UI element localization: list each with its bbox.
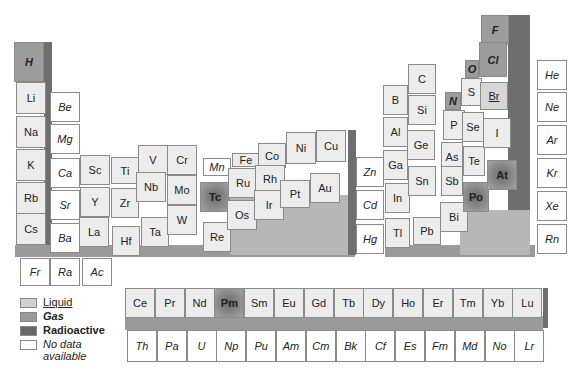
element-symbol: In [393,192,402,204]
nodata-swatch [20,340,37,350]
element-symbol: Ar [547,134,558,146]
element-cr: Cr [167,145,197,175]
lanthanide-ho: Ho [393,288,423,318]
element-symbol: Tl [393,227,402,239]
element-symbol: Pb [420,225,433,237]
element-ba: Ba [50,223,80,253]
gas-swatch [20,312,37,322]
lanthanide-gd: Gd [304,288,334,318]
actinide-es: Es [395,330,425,362]
element-rn: Rn [537,224,567,254]
lanthanide-yb: Yb [483,288,513,318]
element-symbol: P [450,119,457,131]
element-symbol: Sc [89,164,102,176]
element-symbol: Fe [240,154,253,166]
element-cs: Cs [16,213,46,245]
element-symbol: Mg [57,133,72,145]
element-symbol: Po [469,191,483,203]
element-nb: Nb [136,172,166,202]
element-symbol: Pa [165,340,178,352]
element-la: La [79,217,109,247]
element-he: He [537,60,567,90]
element-ca: Ca [50,158,80,188]
element-hf: Hf [112,226,140,256]
element-symbol: Hg [363,233,377,245]
element-symbol: Pm [221,297,238,309]
element-symbol: N [449,95,457,107]
element-symbol: I [495,127,498,139]
element-symbol: Fm [432,340,448,352]
liquid-swatch [20,298,37,308]
element-f: F [481,15,509,45]
element-sc: Sc [80,155,110,185]
element-y: Y [80,187,110,217]
element-symbol: Y [91,196,98,208]
element-ne: Ne [537,92,567,122]
element-symbol: At [496,169,508,181]
element-symbol: Os [235,209,249,221]
lanthanide-er: Er [423,288,453,318]
lanthanide-lu: Lu [512,288,542,318]
element-symbol: Be [58,101,71,113]
element-symbol: Es [404,340,417,352]
actinide-am: Am [276,330,306,362]
element-na: Na [16,116,46,148]
element-symbol: Nd [193,297,207,309]
actinide-md: Md [455,330,485,362]
element-symbol: No [493,340,507,352]
element-w: W [167,205,197,235]
element-be: Be [50,92,80,122]
element-mg: Mg [50,124,80,154]
element-b: B [383,85,408,115]
element-ti: Ti [111,157,139,184]
element-sr: Sr [50,190,80,220]
element-symbol: Ru [236,177,250,189]
element-symbol: Np [224,340,238,352]
element-symbol: Rh [263,173,277,185]
element-au: Au [310,173,340,203]
element-kr: Kr [537,158,567,188]
element-symbol: Pu [254,340,267,352]
element-symbol: Cf [375,340,386,352]
periodic-table-diagram: HLiNaKRbCsFrBeMgCaSrBaRaScYLaAcTiZrHfVNb… [0,0,581,378]
actinide-u: U [187,330,217,362]
element-symbol: Li [27,92,36,104]
element-symbol: As [446,151,459,163]
element-at: At [487,160,517,190]
element-rb: Rb [16,182,46,214]
element-symbol: Zn [364,166,377,178]
element-h: H [14,42,44,82]
element-symbol: Ne [545,101,559,113]
actinide-no: No [485,330,515,362]
element-symbol: Ta [149,226,161,238]
element-symbol: Ac [91,266,104,278]
element-pb: Pb [413,217,441,245]
element-mo: Mo [167,175,197,205]
radioactive-swatch [20,326,37,336]
element-s: S [461,78,482,106]
element-symbol: Cm [312,340,329,352]
element-pt: Pt [280,180,310,208]
element-symbol: Lr [525,340,535,352]
element-o: O [465,60,479,78]
element-symbol: K [27,159,34,171]
element-symbol: Ni [296,142,306,154]
element-i: I [483,118,511,148]
element-symbol: Rb [24,192,38,204]
element-symbol: Eu [282,297,295,309]
element-symbol: Nb [144,181,158,193]
element-symbol: Se [466,121,479,133]
element-symbol: Er [433,297,444,309]
element-symbol: Kr [547,167,558,179]
element-tc: Tc [200,182,230,212]
element-fr: Fr [20,258,50,286]
element-symbol: Dy [372,297,385,309]
element-ni: Ni [286,132,316,164]
element-symbol: Cs [24,223,37,235]
actinide-np: Np [216,330,246,362]
element-symbol: Ba [58,232,71,244]
element-in: In [385,183,410,213]
element-c: C [408,64,436,94]
element-symbol: Xe [545,200,558,212]
legend-label: Radioactive [43,324,105,336]
